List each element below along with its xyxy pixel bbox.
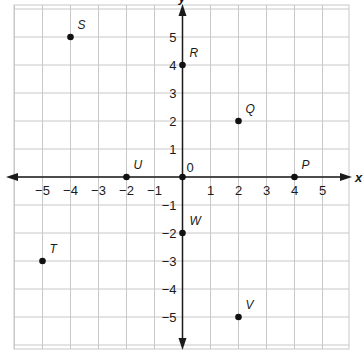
point-r-label: R xyxy=(190,46,199,60)
y-axis-up-arrow-icon xyxy=(179,4,187,16)
y-tick-label: 4 xyxy=(169,58,176,73)
point-w-marker xyxy=(179,230,186,237)
y-tick-label: −1 xyxy=(162,198,177,213)
y-tick-label: 1 xyxy=(169,142,176,157)
x-tick-label: −5 xyxy=(35,183,50,198)
x-tick-label: −4 xyxy=(63,183,78,198)
point-o-marker xyxy=(179,174,186,181)
point-t-marker xyxy=(39,258,46,265)
x-tick-label: 1 xyxy=(207,183,214,198)
point-u-label: U xyxy=(134,158,143,172)
x-tick-label: 5 xyxy=(319,183,326,198)
y-tick-label: 5 xyxy=(169,30,176,45)
x-tick-label: 2 xyxy=(235,183,242,198)
y-tick-label: −4 xyxy=(162,282,177,297)
x-axis-right-arrow-icon xyxy=(340,173,352,181)
x-tick-label: −1 xyxy=(147,183,162,198)
point-w-label: W xyxy=(190,214,203,228)
point-s-marker xyxy=(67,34,74,41)
x-tick-label: −3 xyxy=(91,183,106,198)
point-v-label: V xyxy=(246,298,255,312)
point-s-label: S xyxy=(78,18,86,32)
point-t-label: T xyxy=(50,242,59,256)
y-tick-label: −3 xyxy=(162,254,177,269)
y-tick-label: −2 xyxy=(162,226,177,241)
point-q-marker xyxy=(235,118,242,125)
point-p-label: P xyxy=(302,158,310,172)
y-axis-down-arrow-icon xyxy=(179,338,187,350)
point-v-marker xyxy=(235,314,242,321)
origin-label: 0 xyxy=(187,160,194,175)
coordinate-plane: xy −5−4−3−2−112345−5−4−3−2−1123450 SRQUP… xyxy=(0,0,363,364)
x-axis-left-arrow-icon xyxy=(6,173,18,181)
x-tick-label: −2 xyxy=(119,183,134,198)
point-r-marker xyxy=(179,62,186,69)
point-p-marker xyxy=(291,174,298,181)
x-axis-label: x xyxy=(354,170,363,185)
x-tick-label: 4 xyxy=(291,183,298,198)
y-tick-label: 2 xyxy=(169,114,176,129)
y-tick-label: 3 xyxy=(169,86,176,101)
x-tick-label: 3 xyxy=(263,183,270,198)
point-q-label: Q xyxy=(246,102,255,116)
y-axis-label: y xyxy=(178,0,187,5)
point-u-marker xyxy=(123,174,130,181)
y-tick-label: −5 xyxy=(162,310,177,325)
